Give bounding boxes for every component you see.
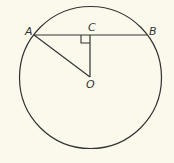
segment-ao — [34, 35, 90, 77]
label-c: C — [88, 22, 96, 33]
label-a: A — [25, 26, 33, 37]
label-b: B — [149, 26, 157, 37]
right-angle-marker — [81, 35, 90, 43]
geometry-diagram: A C B O — [0, 0, 174, 163]
label-o: O — [86, 79, 95, 90]
